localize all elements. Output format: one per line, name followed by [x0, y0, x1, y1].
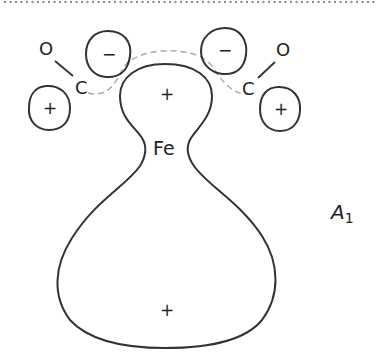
symmetry-label: A1 — [329, 200, 354, 226]
metal-lower-plus-sign: + — [160, 300, 174, 320]
left-carbon-label: C — [75, 77, 88, 98]
left-oxygen-label: O — [39, 38, 53, 59]
metal-upper-plus-sign: + — [160, 84, 174, 104]
right-minus-sign: − — [218, 40, 232, 60]
right-oxygen-label: O — [276, 39, 290, 60]
left-minus-sign: − — [102, 44, 116, 64]
left-plus-sign: + — [43, 98, 57, 118]
right-co-bond — [258, 62, 275, 78]
right-carbon-label: C — [242, 78, 255, 99]
left-co-bond — [55, 61, 73, 76]
symmetry-subscript: 1 — [345, 210, 354, 226]
fe-label: Fe — [153, 137, 175, 159]
right-plus-sign: + — [274, 99, 288, 119]
symmetry-main: A — [329, 200, 345, 224]
orbital-diagram: O C C O Fe − − + + + + A1 — [0, 0, 376, 362]
